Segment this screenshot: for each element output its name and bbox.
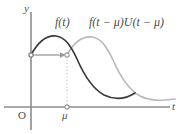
shifted-curve	[67, 37, 175, 100]
origin-open-circle-marker	[29, 53, 33, 57]
t-axis-label: t	[172, 101, 175, 112]
shifted-curve-label: f(t − μ)U(t − μ)	[89, 16, 164, 28]
laplace-shift-figure: y t O μ f(t) f(t − μ)U(t − μ)	[0, 0, 184, 134]
origin-label: O	[18, 110, 26, 121]
mu-tick-label: μ	[62, 110, 68, 121]
y-axis-label: y	[24, 3, 29, 14]
mu-open-circle-marker	[65, 53, 69, 57]
original-curve	[31, 36, 135, 98]
original-curve-label: f(t)	[55, 16, 70, 28]
